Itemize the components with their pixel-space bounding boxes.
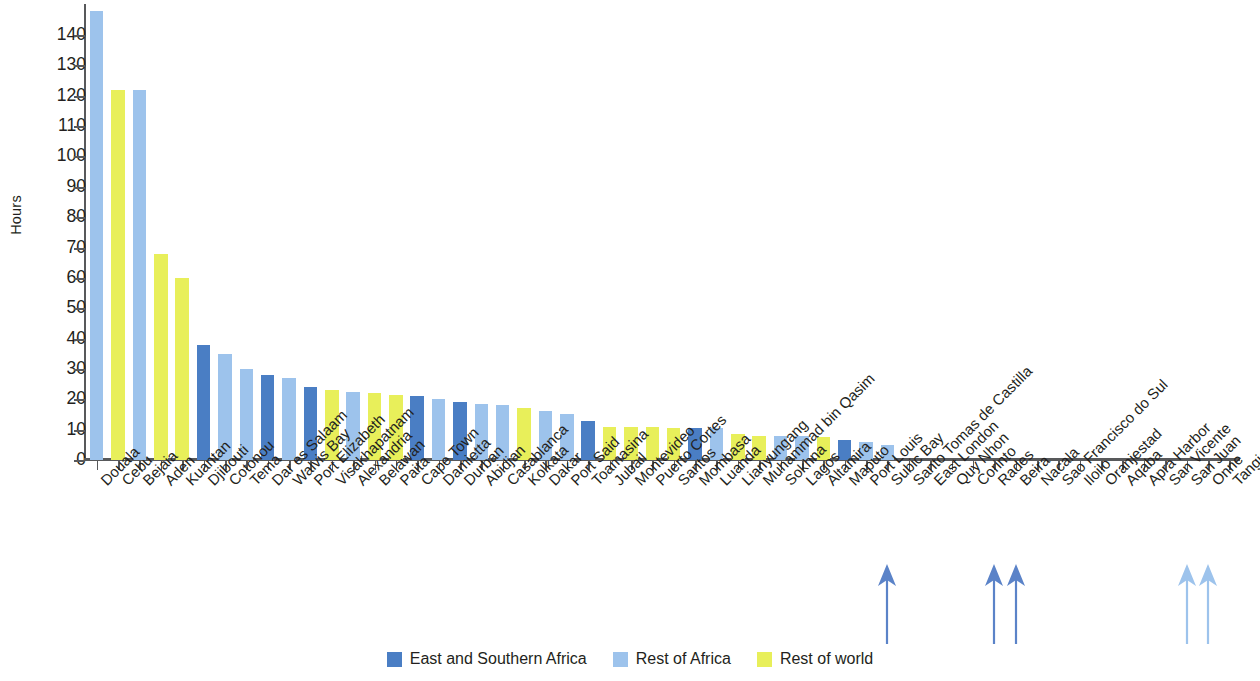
x-tick-label: East London bbox=[930, 476, 942, 488]
y-tick-mark bbox=[74, 248, 85, 250]
bar bbox=[133, 90, 147, 460]
bar bbox=[90, 11, 104, 460]
x-tick-label: Aden bbox=[161, 476, 173, 488]
annotation-arrow bbox=[1005, 562, 1027, 650]
legend-label: Rest of Africa bbox=[636, 650, 731, 668]
legend-swatch bbox=[757, 652, 772, 667]
x-tick-label: Jubail bbox=[610, 476, 622, 488]
x-tick-label: Onne bbox=[1208, 476, 1220, 488]
x-tick-label: Toamasina bbox=[588, 476, 600, 488]
x-tick-label: Luanda bbox=[716, 476, 728, 488]
y-tick-mark bbox=[74, 96, 85, 98]
y-tick-mark bbox=[74, 308, 85, 310]
y-tick-mark bbox=[74, 217, 85, 219]
x-tick-label: Santos bbox=[674, 476, 686, 488]
x-tick-label: Douala bbox=[97, 476, 109, 488]
legend-swatch bbox=[613, 652, 628, 667]
x-tick-label: Bejaia bbox=[139, 476, 151, 488]
y-tick-mark bbox=[74, 369, 85, 371]
legend-item[interactable]: East and Southern Africa bbox=[387, 650, 587, 668]
x-tick-label: Port Louis bbox=[866, 476, 878, 488]
x-tick-label: Apra Harbor bbox=[1144, 476, 1156, 488]
bar bbox=[282, 378, 296, 460]
legend: East and Southern AfricaRest of AfricaRe… bbox=[0, 650, 1260, 668]
bar bbox=[197, 345, 211, 460]
x-tick-label: Belawan bbox=[374, 476, 386, 488]
y-tick-mark bbox=[74, 187, 85, 189]
x-tick-label: Corinto bbox=[973, 476, 985, 488]
legend-label: Rest of world bbox=[780, 650, 873, 668]
x-tick-label: Beira bbox=[1016, 476, 1028, 488]
x-tick-label: Abidjan bbox=[481, 476, 493, 488]
x-tick-label: Lagos bbox=[802, 476, 814, 488]
x-tick-label: Tangier bbox=[1229, 476, 1241, 488]
x-tick-label: San Juan bbox=[1187, 476, 1199, 488]
x-tick-label: Djibouti bbox=[204, 476, 216, 488]
x-tick-label: Port Elizabeth bbox=[310, 476, 322, 488]
x-tick-label: Sokhna bbox=[781, 476, 793, 488]
x-tick-label: Kolkata bbox=[524, 476, 536, 488]
x-tick-label: Alexandria bbox=[353, 476, 365, 488]
x-tick-label: Subic Bay bbox=[887, 476, 899, 488]
x-tick-label: Dakar bbox=[545, 476, 557, 488]
x-tick-label: Quy Nhon bbox=[951, 476, 963, 488]
legend-item[interactable]: Rest of world bbox=[757, 650, 873, 668]
bar-chart: Hours 0102030405060708090100110120130140… bbox=[0, 0, 1260, 681]
x-tick-label: Lianyungang bbox=[738, 476, 750, 488]
x-tick-label: Damietta bbox=[439, 476, 451, 488]
x-tick-label: Altamira bbox=[823, 476, 835, 488]
y-tick-mark bbox=[74, 35, 85, 37]
bar bbox=[154, 254, 168, 460]
annotation-arrow bbox=[876, 562, 898, 650]
x-tick-label: Rades bbox=[994, 476, 1006, 488]
y-tick-mark bbox=[74, 399, 85, 401]
x-tick-label: Iloilo bbox=[1080, 476, 1092, 488]
y-tick-mark bbox=[74, 339, 85, 341]
x-tick-label: Sao Francisco do Sul bbox=[1058, 476, 1070, 488]
bar bbox=[175, 278, 189, 460]
x-tick-label: Cebu bbox=[118, 476, 130, 488]
x-tick-label: Dar es Salaam bbox=[268, 476, 280, 488]
bar bbox=[111, 90, 125, 460]
annotation-arrow bbox=[983, 562, 1005, 650]
x-tick-label: Montevideo bbox=[631, 476, 643, 488]
x-tick-label: Cotonou bbox=[225, 476, 237, 488]
x-tick-label: Tema bbox=[246, 476, 258, 488]
x-tick-label: Nacala bbox=[1037, 476, 1049, 488]
y-tick-mark bbox=[74, 126, 85, 128]
x-tick-label: Walvis Bay bbox=[289, 476, 301, 488]
legend-swatch bbox=[387, 652, 402, 667]
y-tick-mark bbox=[74, 156, 85, 158]
x-tick-label: Maputo bbox=[845, 476, 857, 488]
x-tick-label: Paita bbox=[396, 476, 408, 488]
plot-area bbox=[86, 4, 1240, 460]
x-tick-label: Muhammad bin Qasim bbox=[759, 476, 771, 488]
x-tick-label: Cape Town bbox=[417, 476, 429, 488]
x-tick-label: Puerto Cortes bbox=[652, 476, 664, 488]
x-tick-label: Port Said bbox=[567, 476, 579, 488]
y-tick-mark bbox=[74, 65, 85, 67]
y-tick-mark bbox=[74, 278, 85, 280]
x-tick-label: Durban bbox=[460, 476, 472, 488]
annotation-arrow bbox=[1176, 562, 1198, 650]
x-tick-label: Kuantan bbox=[182, 476, 194, 488]
x-tick-label: Santo Tomas de Castilla bbox=[909, 476, 921, 488]
legend-item[interactable]: Rest of Africa bbox=[613, 650, 731, 668]
x-tick-label: Aqaba bbox=[1122, 476, 1134, 488]
y-tick-mark bbox=[74, 430, 85, 432]
x-tick-label: San Vicente bbox=[1165, 476, 1177, 488]
y-axis-title: Hours bbox=[8, 180, 28, 250]
x-tick-label: Casablanca bbox=[503, 476, 515, 488]
x-tick-label: Oranjestad bbox=[1101, 476, 1113, 488]
x-tick-mark bbox=[97, 461, 99, 470]
annotation-arrow bbox=[1197, 562, 1219, 650]
legend-label: East and Southern Africa bbox=[410, 650, 587, 668]
x-tick-label: Mombasa bbox=[695, 476, 707, 488]
x-tick-label: Visakhapatnam bbox=[332, 476, 344, 488]
